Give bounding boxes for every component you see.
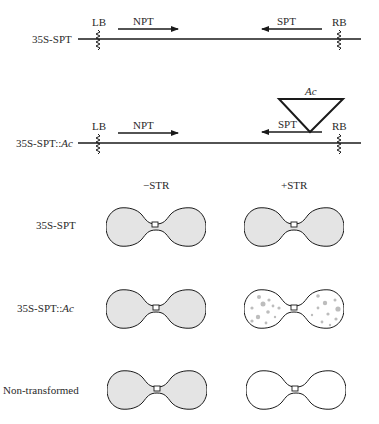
column-header-minus-str: −STR bbox=[143, 179, 170, 191]
spt-label: SPT bbox=[277, 15, 296, 27]
lb-label: LB bbox=[92, 16, 106, 28]
seedling-35s-spt-minus-str bbox=[106, 208, 206, 246]
row-label-non-transformed: Non-transformed bbox=[3, 384, 79, 396]
rb-label: RB bbox=[332, 120, 347, 132]
shoot-apex-icon bbox=[291, 222, 297, 227]
right-border-zigzag-icon bbox=[337, 134, 341, 154]
npt-label: NPT bbox=[133, 119, 154, 131]
spt-label: SPT bbox=[278, 118, 297, 130]
row-label-35s-spt-ac: 35S-SPT::Ac bbox=[17, 302, 74, 314]
column-header-plus-str: +STR bbox=[281, 179, 308, 191]
npt-label: NPT bbox=[133, 15, 154, 27]
shoot-apex-icon bbox=[153, 305, 159, 310]
shoot-apex-icon bbox=[291, 305, 297, 310]
construct-35s-spt: 35S-SPT LB RB NPT SPT bbox=[32, 15, 361, 50]
left-border-zigzag-icon bbox=[96, 30, 100, 50]
ac-label: Ac bbox=[304, 85, 317, 97]
left-border-zigzag-icon bbox=[96, 134, 100, 154]
shoot-apex-icon bbox=[152, 222, 158, 227]
seedling-35s-spt-plus-str bbox=[244, 208, 344, 246]
shoot-apex-icon bbox=[154, 386, 160, 391]
construct-label: 35S-SPT bbox=[32, 33, 72, 45]
diagram-canvas: 35S-SPT LB RB NPT SPT 35S-SPT::Ac LB RB … bbox=[0, 0, 379, 424]
row-label-35s-spt: 35S-SPT bbox=[36, 219, 76, 231]
seedling-35s-spt-ac-minus-str bbox=[106, 290, 206, 328]
shoot-apex-icon bbox=[292, 386, 298, 391]
construct-35s-spt-ac: 35S-SPT::Ac LB RB NPT SPT Ac bbox=[16, 85, 361, 154]
construct-label: 35S-SPT::Ac bbox=[16, 137, 73, 149]
seedling-non-transformed-minus-str bbox=[107, 371, 207, 409]
rb-label: RB bbox=[332, 16, 347, 28]
seedling-non-transformed-plus-str-white bbox=[246, 371, 346, 409]
right-border-zigzag-icon bbox=[337, 30, 341, 50]
seedling-35s-spt-ac-plus-str-variegated bbox=[244, 290, 344, 328]
lb-label: LB bbox=[92, 120, 106, 132]
